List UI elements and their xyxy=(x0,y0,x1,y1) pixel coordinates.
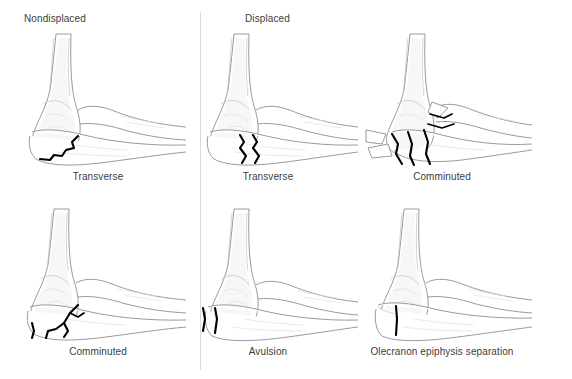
radius-bone xyxy=(256,281,358,315)
panel-nondisplaced-comminuted: Comminuted xyxy=(8,207,188,367)
panel-caption: Olecranon epiphysis separation xyxy=(332,346,552,357)
panel-displaced-transverse: Transverse xyxy=(178,32,358,192)
panel-caption: Transverse xyxy=(178,171,358,182)
radius-bone xyxy=(256,106,358,140)
elbow-diagram-displaced-avulsion xyxy=(178,207,358,347)
column-title-displaced: Displaced xyxy=(245,13,290,24)
panel-nondisplaced-transverse: Transverse xyxy=(8,32,188,192)
panel-caption: Transverse xyxy=(8,171,188,182)
panel-caption: Comminuted xyxy=(8,346,188,357)
elbow-diagram-nondisplaced-comminuted xyxy=(8,207,188,347)
radius-bone xyxy=(76,279,186,313)
radius-bone xyxy=(426,279,532,313)
panel-caption: Comminuted xyxy=(352,171,532,182)
elbow-diagram-displaced-comminuted xyxy=(352,32,532,172)
radius-bone xyxy=(434,104,532,138)
radius-bone xyxy=(78,106,186,140)
panel-displaced-avulsion: Avulsion xyxy=(178,207,358,367)
column-title-nondisplaced: Nondisplaced xyxy=(24,13,86,24)
panel-olecranon-epiphysis-separation: Olecranon epiphysis separation xyxy=(352,207,532,367)
elbow-diagram-nondisplaced-transverse xyxy=(8,32,188,172)
elbow-diagram-displaced-transverse xyxy=(178,32,358,172)
elbow-diagram-olecranon-epiphysis-separation xyxy=(352,207,532,347)
panel-caption: Avulsion xyxy=(178,346,358,357)
panel-displaced-comminuted: Comminuted xyxy=(352,32,532,192)
fracture-classification-figure: Nondisplaced Displaced xyxy=(0,0,572,379)
